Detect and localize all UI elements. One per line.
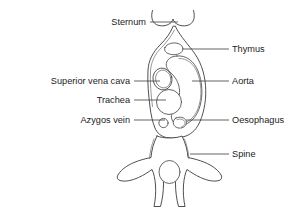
sternum-shape — [152, 11, 195, 26]
thymus-shape — [165, 43, 183, 55]
label-superior-vena-cava: Superior vena cava — [51, 76, 131, 86]
diagram-canvas: Sternum Thymus Superior vena cava Aorta … — [0, 0, 308, 215]
label-thymus: Thymus — [232, 44, 265, 54]
label-azygos-vein: Azygos vein — [80, 115, 130, 125]
label-oesophagus: Oesophagus — [232, 115, 285, 125]
label-spine: Spine — [232, 149, 256, 159]
trachea-shape — [157, 90, 182, 115]
spinal-canal-shape — [159, 161, 180, 184]
anatomical-diagram: Sternum Thymus Superior vena cava Aorta … — [0, 0, 308, 215]
label-aorta: Aorta — [232, 76, 255, 86]
label-sternum: Sternum — [111, 17, 146, 27]
label-trachea: Trachea — [97, 95, 131, 105]
